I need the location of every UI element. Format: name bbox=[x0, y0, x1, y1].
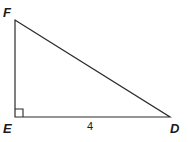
vertex-label-d: D bbox=[170, 122, 179, 135]
geometry-figure: F E D 4 bbox=[0, 0, 188, 142]
triangle-drawing bbox=[0, 0, 188, 142]
right-angle-marker-at-e bbox=[15, 109, 23, 117]
vertex-label-f: F bbox=[3, 6, 11, 19]
side-length-label-ed: 4 bbox=[87, 121, 93, 132]
vertex-label-e: E bbox=[3, 122, 12, 135]
triangle-outline bbox=[15, 20, 170, 117]
